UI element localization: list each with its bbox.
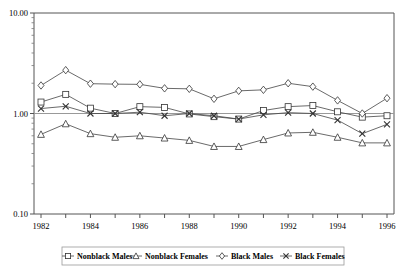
marker-diamond (310, 83, 316, 90)
chart-legend: Nonblack MalesNonblack FemalesBlack Male… (62, 247, 345, 265)
marker-x (384, 121, 390, 127)
marker-square (137, 104, 143, 110)
marker-diamond (384, 94, 390, 101)
legend-label: Nonblack Males (77, 252, 132, 261)
marker-triangle (62, 120, 69, 127)
marker-diamond (112, 80, 118, 87)
y-tick-label: 10.00 (9, 8, 28, 18)
marker-square (384, 113, 390, 119)
y-tick-label: 0.10 (13, 209, 28, 219)
marker-diamond (260, 86, 266, 93)
legend-label: Black Males (231, 252, 273, 261)
marker-square (65, 253, 70, 258)
marker-square (162, 104, 168, 110)
marker-diamond (236, 87, 242, 94)
legend-label: Black Females (295, 252, 345, 261)
y-tick-label: 1.00 (13, 109, 28, 119)
marker-diamond (137, 81, 143, 88)
x-tick-label: 1990 (230, 221, 247, 231)
chart-figure: 10.001.000.10198219841986198819901992199… (0, 0, 405, 272)
marker-square (87, 105, 93, 111)
marker-diamond (285, 80, 291, 87)
marker-diamond (162, 85, 168, 92)
series-nonblack-females (38, 120, 391, 149)
marker-diamond (87, 80, 93, 87)
marker-triangle (87, 130, 94, 137)
marker-x (335, 117, 341, 123)
log-line-chart: 10.001.000.10198219841986198819901992199… (0, 0, 405, 272)
marker-diamond (63, 66, 69, 73)
marker-square (335, 109, 341, 115)
x-tick-label: 1988 (181, 221, 198, 231)
x-tick-label: 1984 (82, 221, 100, 231)
marker-square (285, 104, 291, 110)
x-tick-label: 1982 (33, 221, 50, 231)
marker-square (38, 99, 44, 105)
marker-square (63, 91, 69, 97)
marker-diamond (211, 95, 217, 102)
marker-square (310, 103, 316, 109)
marker-x (359, 131, 365, 137)
marker-diamond (38, 82, 44, 89)
x-tick-label: 1992 (280, 221, 297, 231)
marker-triangle (38, 131, 45, 138)
x-tick-label: 1986 (131, 221, 148, 231)
marker-square (211, 114, 217, 120)
marker-diamond (335, 97, 341, 104)
x-tick-label: 1994 (329, 221, 347, 231)
legend-label: Nonblack Females (145, 252, 208, 261)
x-tick-label: 1996 (379, 221, 396, 231)
marker-diamond (186, 85, 192, 92)
